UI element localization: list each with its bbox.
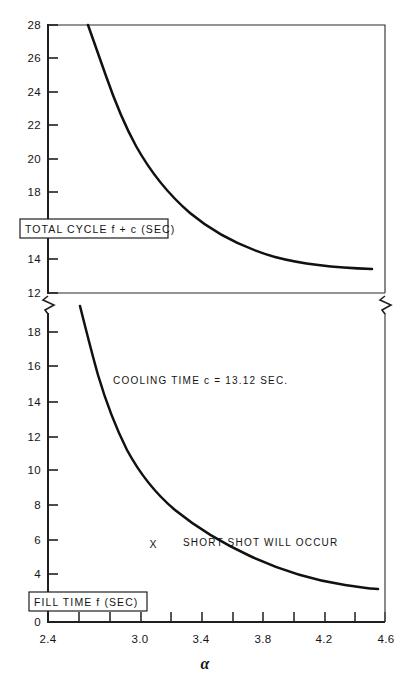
bottom-y-ticklabel: 8 bbox=[34, 499, 41, 511]
top-panel-frame bbox=[48, 25, 385, 293]
top-y-ticklabel: 20 bbox=[27, 153, 41, 165]
bottom-y-ticklabel: 10 bbox=[27, 464, 41, 476]
bottom-panel-y-ticks bbox=[48, 332, 58, 608]
short-shot-marker-icon: X bbox=[149, 538, 156, 550]
total-cycle-panel: 28 26 24 22 20 18 14 12 TOTAL CYCLE f + … bbox=[20, 19, 385, 299]
top-y-ticklabel: 24 bbox=[27, 86, 41, 98]
x-ticklabel: 4.6 bbox=[377, 633, 394, 645]
chart-canvas: 28 26 24 22 20 18 14 12 TOTAL CYCLE f + … bbox=[0, 0, 405, 679]
bottom-y-ticklabel: 6 bbox=[34, 534, 41, 546]
top-y-ticklabel: 14 bbox=[27, 253, 41, 265]
bottom-panel-axis-label: FILL TIME f (SEC) bbox=[29, 592, 147, 611]
short-shot-annotation: SHORT SHOT WILL OCCUR bbox=[183, 537, 338, 548]
x-axis-ticks bbox=[79, 612, 355, 622]
bottom-y-ticklabel: 14 bbox=[27, 396, 41, 408]
bottom-y-ticklabel: 4 bbox=[34, 568, 41, 580]
top-label-text: TOTAL CYCLE f + c (SEC) bbox=[25, 223, 175, 235]
x-ticklabel: 3.0 bbox=[131, 633, 148, 645]
x-ticklabel: 4.2 bbox=[315, 633, 332, 645]
top-y-ticklabel: 18 bbox=[27, 186, 41, 198]
bottom-y-ticklabel: 12 bbox=[27, 431, 41, 443]
left-axis-break-icon bbox=[43, 296, 54, 314]
figure-root: 28 26 24 22 20 18 14 12 TOTAL CYCLE f + … bbox=[0, 0, 405, 679]
top-panel-y-ticks bbox=[48, 25, 58, 293]
x-ticklabel: 3.4 bbox=[192, 633, 209, 645]
bottom-y-ticklabel: 0 bbox=[34, 616, 41, 628]
top-y-ticklabel: 26 bbox=[27, 52, 41, 64]
top-panel-axis-label: TOTAL CYCLE f + c (SEC) bbox=[20, 219, 175, 238]
bottom-panel-axes bbox=[48, 313, 385, 622]
top-y-ticklabel: 22 bbox=[27, 119, 41, 131]
x-ticklabel: 3.8 bbox=[254, 633, 271, 645]
cooling-time-annotation: COOLING TIME c = 13.12 SEC. bbox=[113, 375, 288, 386]
top-y-ticklabel: 12 bbox=[27, 287, 41, 299]
axis-break-marks bbox=[43, 296, 391, 314]
bottom-y-ticklabel: 16 bbox=[27, 360, 41, 372]
bottom-label-text: FILL TIME f (SEC) bbox=[34, 596, 138, 608]
bottom-y-ticklabel: 18 bbox=[27, 326, 41, 338]
right-axis-break-icon bbox=[380, 296, 391, 314]
top-y-ticklabel: 28 bbox=[27, 19, 41, 31]
fill-time-panel: 18 16 14 12 10 8 6 4 0 2.4 3.0 3.4 3.8 4… bbox=[27, 306, 394, 672]
x-ticklabel: 2.4 bbox=[39, 633, 56, 645]
x-axis-title: α bbox=[201, 655, 211, 672]
